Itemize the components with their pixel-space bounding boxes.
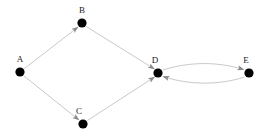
- node-label-a: A: [17, 54, 24, 64]
- graph-svg: A B C D E: [0, 0, 266, 137]
- edge-e-to-d: [163, 77, 244, 84]
- nodes-group: [15, 18, 253, 128]
- node-a[interactable]: [15, 67, 24, 76]
- node-c[interactable]: [78, 119, 87, 128]
- node-label-c: C: [76, 106, 82, 116]
- edge-b-to-d: [86, 26, 154, 69]
- edge-d-to-e: [163, 64, 244, 70]
- edge-a-to-b: [24, 27, 78, 68]
- edge-c-to-d: [87, 77, 154, 121]
- node-label-e: E: [243, 55, 249, 65]
- node-label-d: D: [152, 55, 159, 65]
- node-b[interactable]: [77, 18, 86, 27]
- node-labels-group: A B C D E: [17, 5, 250, 116]
- graph-canvas: A B C D E: [0, 0, 266, 137]
- edges-group: [24, 26, 244, 120]
- node-e[interactable]: [244, 68, 253, 77]
- node-label-b: B: [79, 5, 85, 15]
- edge-a-to-c: [24, 76, 79, 120]
- node-d[interactable]: [153, 68, 162, 77]
